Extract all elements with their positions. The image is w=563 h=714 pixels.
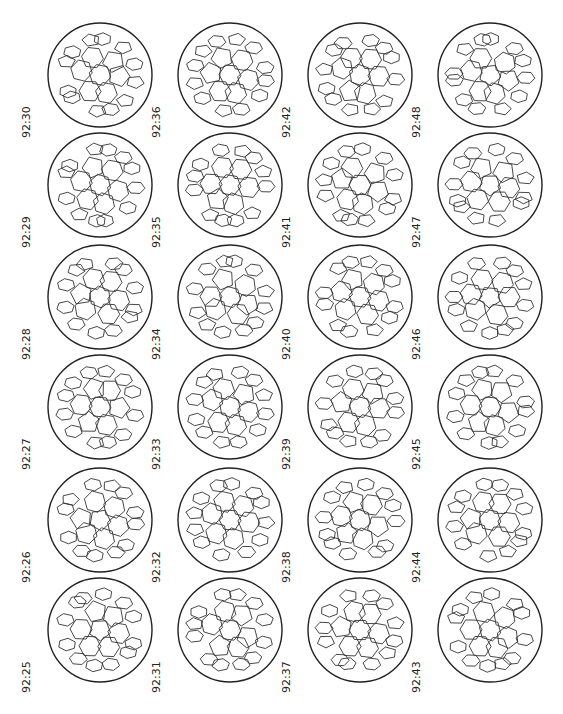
hexagon-face: [447, 410, 464, 422]
fullerene-cage-drawing: [430, 242, 550, 352]
pentagon-face: [235, 145, 251, 157]
hexagon-face: [360, 436, 377, 448]
hexagon-face: [186, 394, 204, 406]
pentagon-face: [189, 307, 206, 319]
pentagon-face: [317, 636, 334, 648]
pentagon-face: [233, 384, 254, 405]
hexagon-face: [98, 304, 120, 324]
pentagon-face: [256, 303, 273, 314]
hexagon-face: [476, 478, 493, 491]
pentagon-face: [515, 278, 532, 290]
hexagon-face: [214, 491, 235, 512]
hexagon-face: [368, 398, 390, 418]
fullerene-cage-drawing: [430, 352, 550, 462]
fullerene-cage-drawing: [300, 575, 420, 685]
isomer-cell: 92:37: [298, 615, 428, 714]
cage-outline: [438, 468, 542, 572]
hexagon-face: [486, 637, 508, 658]
pentagon-face: [213, 436, 230, 448]
hexagon-face: [65, 425, 82, 437]
pentagon-face: [330, 319, 347, 331]
pentagon-face: [332, 168, 353, 188]
hexagon-face: [126, 409, 144, 421]
hexagon-face: [363, 590, 381, 602]
hexagon-face: [193, 492, 210, 505]
hexagon-face: [230, 436, 247, 448]
pentagon-face: [333, 209, 350, 221]
hexagon-face: [254, 496, 270, 509]
hexagon-face: [315, 512, 333, 523]
hexagon-face: [470, 49, 492, 68]
hexagon-face: [516, 503, 533, 515]
hexagon-face: [375, 152, 393, 164]
isomer-label: 92:33: [150, 438, 163, 470]
hexagon-face: [340, 325, 358, 337]
pentagon-face: [202, 209, 219, 221]
hexagon-face: [249, 424, 266, 437]
hexagon-face: [448, 304, 465, 316]
isomer-label: 92:42: [280, 106, 293, 138]
hexagon-face: [353, 193, 373, 215]
pentagon-face: [480, 551, 497, 563]
pentagon-face: [229, 33, 246, 45]
isomer-label: 92:32: [150, 551, 163, 583]
hexagon-face: [516, 299, 534, 311]
hexagon-face: [386, 169, 403, 181]
pentagon-face: [258, 517, 275, 529]
pentagon-face: [187, 524, 204, 536]
isomer-label: 92:37: [280, 661, 293, 693]
pentagon-face: [90, 621, 111, 641]
hexagon-face: [127, 182, 145, 193]
hexagon-face: [58, 279, 75, 291]
fullerene-cage-drawing: [430, 20, 550, 130]
hexagon-face: [376, 488, 394, 500]
fullerene-cage-drawing: [40, 352, 160, 462]
hexagon-face: [326, 375, 343, 387]
cage-outline: [308, 578, 412, 682]
hexagon-face: [331, 654, 349, 665]
hexagon-face: [462, 655, 480, 666]
pentagon-face: [315, 174, 332, 186]
hexagon-face: [455, 94, 472, 106]
hexagon-face: [357, 478, 374, 490]
fullerene-cage-drawing: [300, 242, 420, 352]
pentagon-face: [103, 52, 124, 73]
hexagon-face: [342, 379, 364, 400]
hexagon-face: [86, 659, 103, 671]
pentagon-face: [364, 163, 384, 184]
hexagon-face: [494, 607, 515, 629]
hexagon-face: [125, 386, 141, 399]
hexagon-face: [212, 659, 229, 671]
fullerene-cage-drawing: [40, 242, 160, 352]
pentagon-face: [458, 375, 475, 387]
cage-outline: [438, 578, 542, 682]
hexagon-face: [115, 597, 133, 609]
cage-outline: [48, 468, 152, 572]
pentagon-face: [460, 320, 477, 331]
hexagon-face: [498, 177, 520, 197]
hexagon-face: [210, 480, 228, 492]
pentagon-face: [186, 618, 203, 630]
pentagon-face: [258, 285, 275, 297]
fullerene-cage-drawing: [170, 130, 290, 240]
hexagon-face: [194, 92, 211, 104]
hexagon-face: [191, 606, 207, 619]
fullerene-cage-drawing: [40, 130, 160, 240]
hexagon-face: [196, 426, 213, 438]
hexagon-face: [187, 59, 204, 71]
hexagon-face: [357, 637, 379, 657]
hexagon-face: [186, 170, 203, 182]
pentagon-face: [255, 389, 272, 401]
cage-outline: [178, 468, 282, 572]
hexagon-face: [339, 637, 361, 656]
hexagon-face: [515, 527, 532, 540]
cage-outline: [48, 245, 152, 349]
hexagon-face: [223, 193, 244, 215]
hexagon-face: [323, 157, 340, 170]
hexagon-face: [231, 366, 249, 378]
hexagon-face: [318, 82, 335, 94]
hexagon-face: [73, 545, 91, 556]
hexagon-face: [107, 547, 125, 558]
hexagon-face: [516, 633, 533, 645]
pentagon-face: [367, 324, 384, 336]
